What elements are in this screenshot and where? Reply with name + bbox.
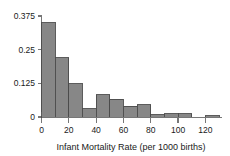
x-tick-label: 60 — [119, 125, 129, 135]
x-tick-label: 40 — [91, 125, 101, 135]
y-axis-tick-labels: 00.1250.250.375 — [14, 11, 36, 122]
histogram-bars — [42, 23, 220, 117]
histogram-figure: 00.1250.250.375 020406080100120 Infant M… — [0, 0, 230, 156]
histogram-bar — [178, 114, 192, 117]
x-tick-label: 120 — [198, 125, 212, 135]
histogram-bar — [69, 84, 83, 117]
y-tick-label: 0.25 — [18, 45, 35, 55]
x-tick-label: 80 — [146, 125, 156, 135]
histogram-bar — [164, 114, 178, 117]
histogram-bar — [137, 105, 151, 117]
histogram-plot-area: 00.1250.250.375 020406080100120 Infant M… — [0, 0, 230, 156]
x-axis-tick-labels: 020406080100120 — [39, 125, 213, 135]
histogram-bar — [123, 106, 137, 117]
histogram-bar — [42, 23, 56, 117]
histogram-bar — [55, 58, 69, 117]
histogram-bar — [96, 95, 110, 117]
x-tick-label: 20 — [64, 125, 74, 135]
histogram-bar — [151, 115, 165, 117]
histogram-bar — [82, 109, 96, 117]
y-tick-label: 0 — [30, 112, 35, 122]
histogram-bar — [110, 99, 124, 117]
y-tick-label: 0.375 — [14, 11, 36, 21]
x-tick-label: 100 — [171, 125, 185, 135]
x-tick-label: 0 — [39, 125, 44, 135]
y-tick-label: 0.125 — [14, 78, 36, 88]
x-axis-title: Infant Mortality Rate (per 1000 births) — [56, 142, 205, 152]
